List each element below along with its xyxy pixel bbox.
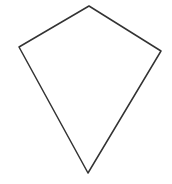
kite-shape: [19, 6, 161, 173]
kite-diagram: [0, 0, 172, 184]
